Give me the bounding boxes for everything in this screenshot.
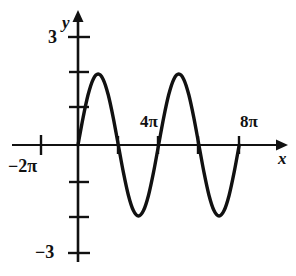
y-axis-label: y [62,14,70,31]
x-tick-label-8pi: 8π [240,113,258,130]
x-tick-label-minus-2pi: −2π [8,157,37,175]
x-tick-label-4pi: 4π [140,113,158,130]
coordinate-plane [0,0,296,276]
y-tick-label-minus-3: −3 [35,243,54,261]
graph-figure: y x 3 −3 −2π 4π 8π [0,0,296,276]
y-tick-label-3: 3 [48,28,57,46]
x-axis-label: x [278,150,287,167]
y-axis-arrowhead [73,10,84,22]
